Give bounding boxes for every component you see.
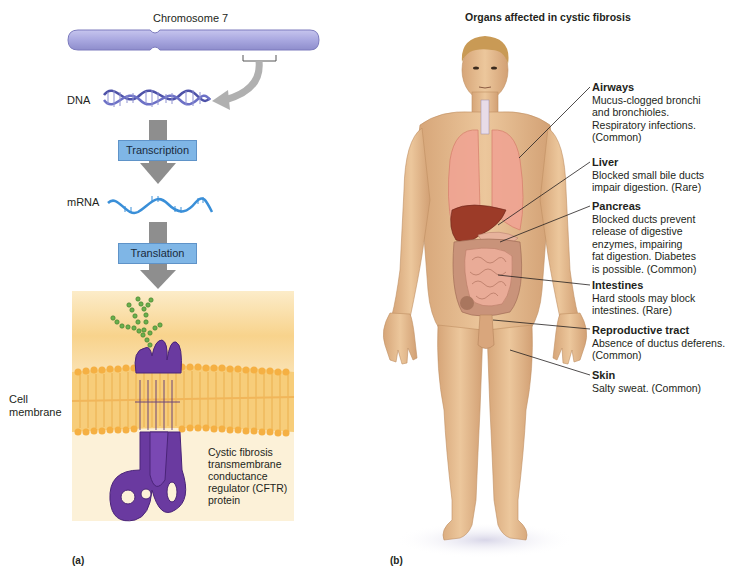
callout-airways: Airways Mucus-clogged bronchi and bronch…	[592, 81, 701, 144]
gene-pathway-illustration	[0, 0, 370, 573]
cftr-protein-label: Cystic fibrosis transmembrane conductanc…	[208, 446, 287, 506]
callout-pancreas: Pancreas Blocked ducts prevent release o…	[592, 200, 696, 275]
mrna-strand-icon	[108, 196, 212, 213]
panel-letter-a: (a)	[72, 555, 84, 566]
intestines-icon	[453, 239, 522, 316]
cell-membrane-label: Cell membrane	[9, 393, 62, 419]
dna-label: DNA	[67, 94, 90, 107]
human-body-illustration	[380, 30, 620, 570]
panel-letter-b: (b)	[390, 555, 403, 566]
figure-title: Organs affected in cystic fibrosis	[465, 11, 631, 23]
mrna-label: mRNA	[67, 196, 99, 209]
callout-liver: Liver Blocked small bile ducts impair di…	[592, 156, 704, 194]
transcription-box: Transcription	[118, 140, 197, 161]
panel-a-gene-to-protein: Chromosome 7	[0, 0, 370, 573]
callout-intestines: Intestines Hard stools may block intesti…	[592, 279, 695, 317]
dna-helix-icon	[104, 90, 210, 107]
translation-box: Translation	[118, 243, 197, 264]
callout-reproductive-tract: Reproductive tract Absence of ductus def…	[592, 324, 725, 362]
callout-skin: Skin Salty sweat. (Common)	[592, 369, 701, 394]
trachea-icon	[481, 100, 489, 134]
reproductive-organ-icon	[478, 315, 494, 349]
